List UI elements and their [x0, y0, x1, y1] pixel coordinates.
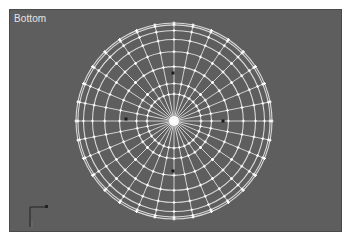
sphere-wireframe[interactable] — [10, 10, 342, 232]
viewport-label[interactable]: Bottom — [14, 13, 46, 24]
viewport-bottom[interactable]: Bottom — [9, 9, 342, 232]
axis-tripod-icon — [24, 201, 54, 229]
